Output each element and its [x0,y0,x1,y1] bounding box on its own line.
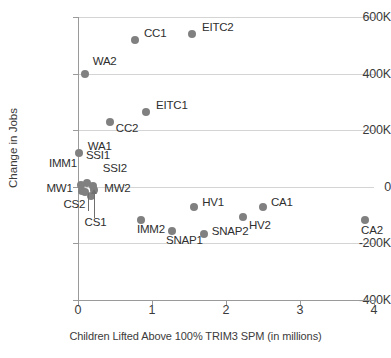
data-point-cc2[interactable] [106,118,114,126]
data-point-label-ssi2: SSI2 [103,162,127,174]
data-point-label-snap1: SNAP1 [166,234,203,246]
data-point-label-cs2: CS2 [63,198,85,210]
data-point-label-imm2: IMM2 [137,223,165,235]
data-point-label-eitc2: EITC2 [202,21,234,33]
data-point-label-snap2: SNAP2 [212,225,249,237]
data-point-label-cs1: CS1 [85,216,107,228]
data-point-hv1[interactable] [190,203,198,211]
data-point-cc1[interactable] [131,36,139,44]
data-point-label-cc2: CC2 [116,122,138,134]
data-point-label-ca1: CA1 [271,196,293,208]
x-tick-label: 1 [149,303,156,317]
y-tick-label: 0 [325,180,391,194]
data-point-label-hv1: HV1 [202,196,224,208]
data-point-eitc2[interactable] [188,30,196,38]
x-tick-label: 4 [371,303,378,317]
x-tick-label: 3 [297,303,304,317]
y-tick-label: 600K [325,10,391,24]
data-point-label-mw2: MW2 [104,182,130,194]
data-point-ca1[interactable] [259,203,267,211]
data-point-ca2[interactable] [361,216,369,224]
y-axis-title: Change in Jobs [7,73,19,223]
data-point-eitc1[interactable] [142,108,150,116]
cs2-leader-line [88,193,89,211]
data-point-label-cc1: CC1 [144,27,166,39]
x-axis-title: Children Lifted Above 100% TRIM3 SPM (in… [0,330,391,342]
data-point-snap2[interactable] [200,230,208,238]
cs1-leader-arrow [91,189,97,194]
x-tick-label: 0 [75,303,82,317]
data-point-label-imm1: IMM1 [49,157,77,169]
y-tick-label: -200K [325,236,391,250]
data-point-wa1[interactable] [75,149,83,157]
data-point-label-wa2: WA2 [93,55,117,67]
data-point-hv2[interactable] [239,213,247,221]
data-point-wa2[interactable] [81,70,89,78]
data-point-label-eitc1: EITC1 [156,99,188,111]
data-point-label-ca2: CA2 [361,224,383,236]
scatter-chart: 600K400K200K0-200K-400K 01234 EITC2CC1WA… [0,0,391,358]
y-tick-label: 400K [325,67,391,81]
data-point-label-mw1: MW1 [46,182,72,194]
y-tick-label: 200K [325,123,391,137]
data-point-label-hv2: HV2 [249,219,271,231]
x-tick-label: 2 [223,303,230,317]
cs1-leader-line [94,192,95,218]
data-point-label-ssi1: SSI1 [86,149,110,161]
y-axis-line [78,17,79,300]
